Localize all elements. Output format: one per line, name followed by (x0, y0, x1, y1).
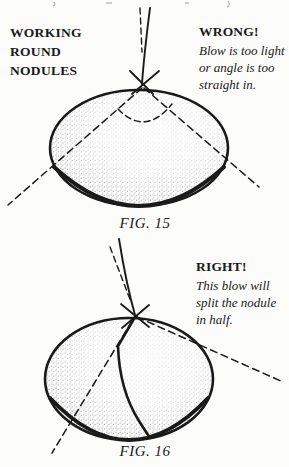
wrong-callout: WRONG! Blow is too light or angle is too… (199, 23, 289, 93)
fig15-label: FIG. 15 (90, 215, 200, 232)
section-heading: WORKING ROUND NODULES (10, 23, 82, 80)
wrong-callout-title: WRONG! (199, 23, 289, 41)
right-callout: RIGHT! This blow will split the nodule i… (196, 258, 288, 328)
nodule-15-stipple-shading (50, 90, 228, 206)
fig16-label: FIG. 16 (90, 443, 200, 460)
right-callout-title: RIGHT! (196, 258, 288, 276)
wrong-callout-caption: Blow is too light or angle is too straig… (199, 42, 289, 93)
book-page: WORKING ROUND NODULES WRONG! Blow is too… (0, 0, 289, 467)
right-callout-caption: This blow will split the nodule in half. (196, 277, 288, 328)
